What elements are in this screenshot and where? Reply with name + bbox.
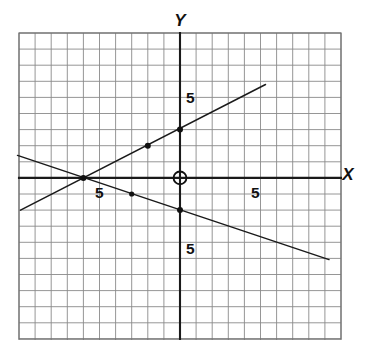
x-negative-tick-label: 5 (95, 184, 104, 201)
graph-figure: 5 5 5 5 Y X (0, 0, 368, 363)
point-descending-mid (129, 191, 134, 196)
point-ascending-y-intercept (177, 127, 183, 133)
y-positive-tick-label: 5 (186, 89, 195, 106)
x-positive-tick-label: 5 (251, 184, 260, 201)
y-negative-tick-label: 5 (186, 240, 195, 257)
point-ascending-mid (145, 143, 151, 149)
descending-line (18, 155, 330, 259)
point-descending-y-intercept (177, 207, 183, 213)
x-axis-label: X (341, 165, 355, 184)
y-axis-label: Y (174, 11, 187, 30)
point-ascending-x-intercept (80, 175, 86, 181)
coordinate-plane: 5 5 5 5 Y X (0, 0, 368, 363)
